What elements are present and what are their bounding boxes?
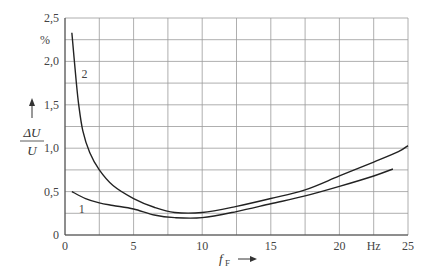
y-tick-label: 1,5 — [44, 98, 59, 112]
y-tick-label: 1,0 — [44, 141, 59, 155]
curve-label: 2 — [81, 67, 87, 81]
arrow-right-icon — [250, 256, 257, 262]
curve-2 — [72, 33, 408, 213]
y-axis-label: ΔU U — [20, 98, 44, 158]
y-tick-label: 0,5 — [44, 185, 59, 199]
y-tick-label: 0 — [53, 228, 59, 242]
x-tick-label: 25 — [402, 239, 414, 253]
grid — [65, 18, 408, 235]
y-unit-label: % — [40, 33, 50, 47]
arrow-up-icon — [29, 98, 35, 106]
x-tick-label: 0 — [62, 239, 68, 253]
x-tick-label: Hz — [367, 239, 381, 253]
x-axis-label: f F — [219, 251, 257, 268]
chart: 05101520Hz25 00,51,01,52,02,5 12 % ΔU U … — [0, 0, 431, 277]
x-label-sub: F — [225, 258, 230, 268]
curves — [72, 33, 408, 218]
y-tick-label: 2,5 — [44, 11, 59, 25]
y-tick-label: 2,0 — [44, 54, 59, 68]
x-tick-label: 5 — [131, 239, 137, 253]
x-tick-label: 20 — [333, 239, 345, 253]
x-tick-label: 10 — [196, 239, 208, 253]
x-tick-labels: 05101520Hz25 — [62, 239, 414, 253]
x-tick-label: 15 — [265, 239, 277, 253]
curve-label: 1 — [79, 202, 85, 216]
curve-1 — [72, 169, 393, 218]
y-label-denominator: U — [27, 143, 38, 158]
y-label-numerator: ΔU — [22, 125, 42, 140]
